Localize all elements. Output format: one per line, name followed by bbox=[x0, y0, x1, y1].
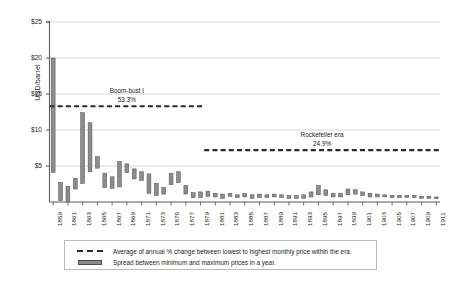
price-spread-bar bbox=[243, 193, 247, 197]
x-axis-tick-label: 1861 bbox=[70, 212, 77, 226]
x-axis-tick-label: 1877 bbox=[188, 212, 195, 226]
price-spread-bar bbox=[95, 157, 99, 169]
price-spread-bar bbox=[81, 113, 85, 184]
era-annotation: Rockefeller era24.9% bbox=[262, 131, 382, 148]
price-spread-bar bbox=[258, 194, 262, 198]
x-axis-tick-label: 1889 bbox=[277, 212, 284, 226]
x-axis-tick-label: 1899 bbox=[350, 212, 357, 226]
x-axis-tick-label: 1901 bbox=[365, 212, 372, 226]
price-spread-bar bbox=[169, 173, 173, 185]
price-spread-bar bbox=[140, 172, 144, 181]
price-spread-bar bbox=[280, 195, 284, 198]
price-spread-bar bbox=[199, 192, 203, 198]
price-spread-bar bbox=[88, 123, 92, 172]
price-spread-bar bbox=[331, 193, 335, 197]
price-spread-bar bbox=[420, 196, 424, 198]
price-spread-bar bbox=[302, 195, 306, 199]
price-spread-bar bbox=[110, 177, 114, 189]
x-axis-tick-label: 1907 bbox=[409, 212, 416, 226]
price-spread-bar bbox=[287, 196, 291, 199]
price-spread-bar bbox=[206, 191, 210, 196]
chart-legend: Average of annual % change between lowes… bbox=[64, 240, 377, 270]
era-annotation-value: 53.3% bbox=[67, 96, 187, 105]
price-spread-bar bbox=[309, 192, 313, 197]
price-spread-bar bbox=[59, 183, 63, 201]
price-spread-bar bbox=[132, 169, 136, 179]
x-axis-tick-label: 1883 bbox=[232, 212, 239, 226]
price-spread-bar bbox=[184, 185, 188, 194]
x-axis-tick-label: 1895 bbox=[321, 212, 328, 226]
price-spread-bar bbox=[147, 174, 151, 193]
price-spread-bar bbox=[177, 172, 181, 183]
price-spread-bar bbox=[66, 186, 70, 201]
price-spread-bar bbox=[213, 193, 217, 197]
x-axis-tick-label: 1879 bbox=[203, 212, 210, 226]
legend-label-average-line: Average of annual % change between lowes… bbox=[113, 248, 352, 255]
price-spread-bar bbox=[324, 190, 328, 196]
price-spread-bar bbox=[375, 194, 379, 197]
x-axis-tick-label: 1875 bbox=[173, 212, 180, 226]
price-spread-bar bbox=[353, 190, 357, 194]
price-spread-bar bbox=[162, 188, 166, 194]
x-axis-tick-label: 1891 bbox=[291, 212, 298, 226]
x-axis-tick-label: 1871 bbox=[144, 212, 151, 226]
price-spread-bar bbox=[265, 195, 269, 198]
era-annotation-label: Boom-bust I bbox=[110, 87, 144, 94]
price-spread-bar bbox=[398, 196, 402, 198]
x-axis-tick-label: 1897 bbox=[336, 212, 343, 226]
era-annotation-label: Rockefeller era bbox=[301, 131, 344, 138]
x-axis-tick-label: 1903 bbox=[380, 212, 387, 226]
price-spread-bar bbox=[272, 194, 276, 197]
price-spread-bar bbox=[427, 196, 431, 198]
x-axis-tick-label: 1865 bbox=[100, 212, 107, 226]
price-spread-bar bbox=[221, 194, 225, 198]
x-axis-tick-label: 1869 bbox=[129, 212, 136, 226]
legend-item-spread-bar: Spread between minimum and maximum price… bbox=[65, 256, 376, 268]
bar-key-icon bbox=[75, 260, 105, 265]
price-spread-bar bbox=[73, 178, 77, 189]
price-spread-bar bbox=[191, 193, 195, 198]
oil-price-chart: USD/barrel $25$20$15$10$5 18591861186318… bbox=[0, 0, 451, 286]
price-spread-bar bbox=[235, 195, 239, 198]
era-annotation: Boom-bust I53.3% bbox=[67, 87, 187, 104]
price-spread-bar bbox=[339, 193, 343, 197]
price-spread-bar bbox=[125, 164, 129, 173]
x-axis-tick-label: 1887 bbox=[262, 212, 269, 226]
price-spread-bar bbox=[294, 196, 298, 199]
x-axis-tick-label: 1859 bbox=[56, 212, 63, 226]
x-axis-tick-label: 1909 bbox=[424, 212, 431, 226]
price-spread-bar bbox=[103, 173, 107, 187]
price-spread-bar bbox=[361, 192, 365, 196]
dashed-line-key-icon bbox=[75, 250, 105, 252]
x-axis-tick-label: 1867 bbox=[115, 212, 122, 226]
x-axis-tick-label: 1911 bbox=[439, 212, 446, 226]
x-axis-tick-label: 1893 bbox=[306, 212, 313, 226]
era-annotation-value: 24.9% bbox=[262, 140, 382, 149]
x-axis-tick-label: 1885 bbox=[247, 212, 254, 226]
x-axis-tick-label: 1873 bbox=[159, 212, 166, 226]
price-spread-bar bbox=[228, 193, 232, 196]
price-spread-bar bbox=[434, 197, 438, 199]
price-spread-bar bbox=[346, 189, 350, 195]
legend-label-spread-bar: Spread between minimum and maximum price… bbox=[113, 259, 276, 266]
x-axis-tick-label: 1863 bbox=[85, 212, 92, 226]
price-spread-bar bbox=[368, 193, 372, 197]
price-spread-bar bbox=[390, 196, 394, 198]
price-spread-bar bbox=[383, 195, 387, 197]
price-spread-bar bbox=[51, 58, 55, 172]
price-spread-bar bbox=[412, 196, 416, 198]
price-spread-bar bbox=[250, 195, 254, 199]
price-spread-bar bbox=[118, 162, 122, 187]
price-spread-bar bbox=[317, 185, 321, 194]
x-axis-tick-label: 1881 bbox=[218, 212, 225, 226]
x-axis-tick-label: 1905 bbox=[395, 212, 402, 226]
price-spread-bar bbox=[405, 196, 409, 198]
price-spread-bar bbox=[154, 183, 158, 195]
